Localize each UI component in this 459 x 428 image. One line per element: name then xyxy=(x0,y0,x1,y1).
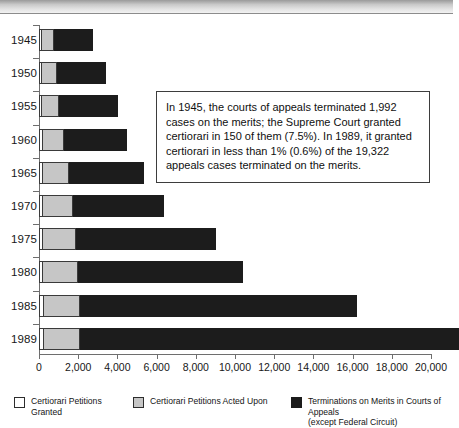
bar-row xyxy=(0,29,453,51)
bar-row xyxy=(0,195,453,217)
x-axis-label: 20,000 xyxy=(405,361,457,373)
bar-row xyxy=(0,261,453,283)
bar-row xyxy=(0,295,453,317)
x-axis-tick xyxy=(313,354,314,359)
legend-item: Certiorari Petitions Acted Upon xyxy=(133,396,288,408)
bar-row xyxy=(0,62,453,84)
legend-label: Certiorari Petitions Granted xyxy=(31,396,129,417)
segment-petitions-acted-upon xyxy=(44,328,80,350)
y-axis-tick xyxy=(33,125,40,126)
segment-terminations-on-merits xyxy=(80,328,459,350)
legend-swatch xyxy=(133,397,144,408)
y-axis-tick xyxy=(33,158,40,159)
chart-legend: Certiorari Petitions GrantedCertiorari P… xyxy=(0,396,453,428)
y-axis-tick xyxy=(33,191,40,192)
page-edge-strip xyxy=(0,0,453,14)
segment-terminations-on-merits xyxy=(69,162,144,184)
x-axis-tick xyxy=(274,354,275,359)
legend-item: Certiorari Petitions Granted xyxy=(14,396,129,417)
segment-petitions-acted-upon xyxy=(42,62,57,84)
y-axis-tick xyxy=(33,291,40,292)
segment-terminations-on-merits xyxy=(59,95,118,117)
chart-plot-area: 1945195019551960196519701975198019851989… xyxy=(0,17,453,372)
x-axis-tick xyxy=(196,354,197,359)
segment-petitions-acted-upon xyxy=(43,228,76,250)
segment-petitions-acted-upon xyxy=(44,295,80,317)
x-axis-tick xyxy=(78,354,79,359)
bar-row xyxy=(0,228,453,250)
x-axis-tick xyxy=(157,354,158,359)
x-axis-tick xyxy=(39,354,40,359)
segment-petitions-acted-upon xyxy=(42,29,54,51)
segment-terminations-on-merits xyxy=(78,261,243,283)
segment-terminations-on-merits xyxy=(80,295,357,317)
bar-row xyxy=(0,328,453,350)
y-axis-tick xyxy=(33,91,40,92)
legend-label: Terminations on Merits in Courts of Appe… xyxy=(308,396,451,428)
segment-terminations-on-merits xyxy=(76,228,216,250)
segment-terminations-on-merits xyxy=(64,129,128,151)
y-axis-tick xyxy=(33,25,40,26)
segment-petitions-acted-upon xyxy=(43,129,64,151)
segment-terminations-on-merits xyxy=(54,29,93,51)
legend-label: Certiorari Petitions Acted Upon xyxy=(150,396,268,407)
y-axis-tick xyxy=(33,324,40,325)
segment-petitions-acted-upon xyxy=(43,261,78,283)
segment-petitions-acted-upon xyxy=(42,95,59,117)
x-axis-tick xyxy=(353,354,354,359)
legend-swatch xyxy=(291,397,302,408)
x-axis-tick xyxy=(431,354,432,359)
segment-petitions-acted-upon xyxy=(43,195,74,217)
y-axis-tick xyxy=(33,224,40,225)
y-axis-tick xyxy=(33,58,40,59)
x-axis-tick xyxy=(117,354,118,359)
annotation-callout: In 1945, the courts of appeals terminate… xyxy=(156,91,430,183)
legend-swatch xyxy=(14,397,25,408)
segment-petitions-acted-upon xyxy=(43,162,69,184)
segment-terminations-on-merits xyxy=(57,62,106,84)
y-axis-tick xyxy=(33,257,40,258)
x-axis-tick xyxy=(392,354,393,359)
x-axis-tick xyxy=(235,354,236,359)
legend-item: Terminations on Merits in Courts of Appe… xyxy=(291,396,451,428)
segment-terminations-on-merits xyxy=(73,195,164,217)
